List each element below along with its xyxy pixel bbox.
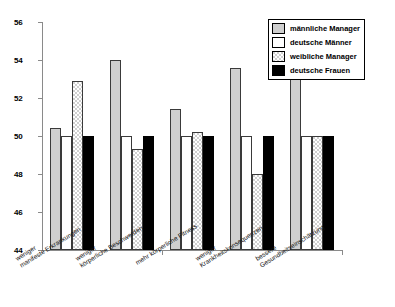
legend-item: deutsche Frauen <box>272 65 360 76</box>
bar <box>170 109 181 250</box>
bar <box>263 136 274 250</box>
x-tick-mark <box>282 251 283 255</box>
x-tick-mark <box>222 251 223 255</box>
legend-label: deutsche Frauen <box>290 66 350 75</box>
legend-item: männliche Manager <box>272 23 360 34</box>
bar <box>192 132 203 250</box>
y-tick-mark <box>38 212 42 213</box>
y-tick-mark <box>38 60 42 61</box>
y-tick-label: 48 <box>14 170 23 179</box>
legend-swatch <box>272 23 285 34</box>
bar <box>323 136 334 250</box>
x-tick-mark <box>342 251 343 255</box>
y-tick-label: 56 <box>14 18 23 27</box>
bar <box>110 60 121 250</box>
y-tick-mark <box>38 98 42 99</box>
bar-chart: 44464850525456 wenigermanifeste Erkranku… <box>0 0 395 307</box>
x-tick-mark <box>162 251 163 255</box>
bar-group <box>162 22 222 250</box>
legend-item: weibliche Manager <box>272 51 360 62</box>
legend-swatch <box>272 65 285 76</box>
legend-label: weibliche Manager <box>290 52 357 61</box>
legend-label: deutsche Männer <box>290 38 352 47</box>
x-tick-mark <box>102 251 103 255</box>
legend-label: männliche Manager <box>290 24 360 33</box>
bar-group <box>102 22 162 250</box>
legend: männliche Managerdeutsche Männerweiblich… <box>268 19 365 80</box>
legend-swatch <box>272 37 285 48</box>
bar-group <box>42 22 102 250</box>
y-tick-label: 54 <box>14 56 23 65</box>
y-tick-label: 50 <box>14 132 23 141</box>
y-tick-label: 52 <box>14 94 23 103</box>
bar <box>203 136 214 250</box>
bar <box>230 68 241 250</box>
bar <box>252 174 263 250</box>
y-tick-mark <box>38 136 42 137</box>
y-tick-mark <box>38 174 42 175</box>
y-tick-mark <box>38 22 42 23</box>
y-tick-label: 46 <box>14 208 23 217</box>
bar <box>83 136 94 250</box>
legend-swatch <box>272 51 285 62</box>
legend-item: deutsche Männer <box>272 37 360 48</box>
bar <box>143 136 154 250</box>
